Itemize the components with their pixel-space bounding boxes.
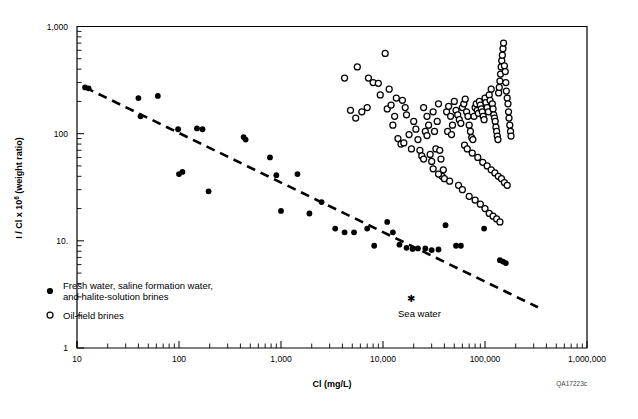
data-point — [388, 102, 394, 108]
legend-label-fresh-water-line2: and halite-solution brines — [63, 291, 169, 302]
data-point — [430, 166, 436, 172]
data-point — [506, 115, 512, 121]
data-point — [422, 245, 428, 251]
asterisk-icon: ✱ — [407, 293, 415, 304]
data-point — [194, 125, 200, 131]
data-point — [458, 243, 464, 249]
data-point — [408, 146, 414, 152]
x-tick-label: 100,000 — [470, 354, 501, 364]
data-point — [384, 219, 390, 225]
data-point — [206, 188, 212, 194]
data-point — [501, 63, 507, 69]
data-point — [508, 133, 514, 139]
data-point — [504, 95, 510, 101]
x-tick-label: 100 — [172, 354, 186, 364]
data-point — [424, 113, 430, 119]
y-tick-label: 1 — [63, 343, 68, 353]
data-point — [351, 229, 357, 235]
y-tick-label: 1,000 — [47, 22, 69, 32]
data-point — [429, 247, 435, 253]
y-tick-label: 100 — [54, 129, 68, 139]
data-point — [354, 64, 360, 70]
data-point — [503, 80, 509, 86]
figure-background — [0, 0, 638, 419]
data-point — [505, 101, 511, 107]
data-point — [470, 137, 476, 143]
y-tick-label: 10. — [56, 236, 68, 246]
data-point — [319, 199, 325, 205]
data-point — [307, 211, 313, 217]
scatter-plot-svg: 101001,00010,000100,0001,000,000 110.100… — [0, 0, 638, 419]
data-point — [459, 187, 465, 193]
data-point — [466, 193, 472, 199]
data-point — [438, 156, 444, 162]
data-point — [377, 92, 383, 98]
data-point — [397, 242, 403, 248]
data-point — [347, 107, 353, 113]
figure-id-label: QA17223c — [556, 380, 587, 388]
data-point — [404, 245, 410, 251]
data-point — [435, 101, 441, 107]
data-point — [410, 246, 416, 252]
x-tick-label: 10,000 — [370, 354, 396, 364]
data-point — [402, 105, 408, 111]
data-point — [200, 126, 206, 132]
data-point — [267, 155, 273, 161]
data-point — [136, 95, 142, 101]
data-point — [421, 156, 427, 162]
data-point — [364, 226, 370, 232]
x-tick-label: 1,000 — [270, 354, 292, 364]
data-point — [342, 229, 348, 235]
data-point — [481, 226, 487, 232]
data-point — [472, 197, 478, 203]
data-point — [497, 78, 503, 84]
data-point — [401, 140, 407, 146]
data-point — [86, 85, 92, 91]
data-point — [475, 154, 481, 160]
data-point — [435, 171, 441, 177]
data-point — [467, 128, 473, 134]
legend-label-oil-field-brines: Oil-field brines — [63, 310, 124, 321]
data-point — [507, 122, 513, 128]
data-point — [501, 40, 507, 46]
data-point — [180, 169, 186, 175]
data-point — [446, 103, 452, 109]
data-point — [406, 132, 412, 138]
data-point — [332, 226, 338, 232]
data-point — [382, 50, 388, 56]
legend-marker-open-circle — [47, 312, 53, 318]
data-point — [390, 122, 396, 128]
x-tick-label: 1,000,000 — [568, 354, 606, 364]
data-point — [481, 117, 487, 123]
data-point — [364, 105, 370, 111]
data-point — [497, 219, 503, 225]
data-point — [278, 208, 284, 214]
data-point — [359, 109, 365, 115]
x-tick-label: 10 — [72, 354, 82, 364]
data-point — [390, 229, 396, 235]
data-point — [386, 86, 392, 92]
data-point — [434, 118, 440, 124]
data-point — [375, 80, 381, 86]
data-point — [488, 86, 494, 92]
data-point — [399, 97, 405, 103]
data-point — [502, 69, 508, 75]
data-point — [449, 122, 455, 128]
data-point — [342, 75, 348, 81]
data-point — [371, 243, 377, 249]
data-point — [447, 178, 453, 184]
data-point — [427, 151, 433, 157]
data-point — [492, 118, 498, 124]
data-point — [469, 150, 475, 156]
y-axis-title: I / Cl x 106 (weight ratio) — [13, 137, 24, 239]
legend-marker-filled-circle — [47, 288, 53, 294]
data-point — [437, 147, 443, 153]
data-point — [393, 95, 399, 101]
data-point — [430, 109, 436, 115]
legend-label-fresh-water-line1: Fresh water, saline formation water, — [63, 280, 213, 291]
data-point — [415, 245, 421, 251]
figure-container: 101001,00010,000100,0001,000,000 110.100… — [0, 0, 638, 419]
data-point — [424, 133, 430, 139]
data-point — [496, 84, 502, 90]
data-point — [432, 128, 438, 134]
